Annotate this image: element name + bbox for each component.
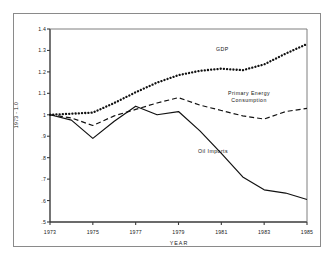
y-tick-label: .7 [18, 176, 46, 182]
x-axis-title: YEAR [50, 240, 308, 246]
chart-figure: 1.41.31.21.11.9.8.7.6.5 1973197519771979… [0, 0, 334, 261]
series-label-primary-energy-consumption: Primary Energy Consumption [228, 90, 270, 104]
plot-axes [50, 29, 307, 222]
y-tick-label: 1.2 [18, 69, 46, 75]
x-tick-label: 1977 [122, 229, 150, 235]
x-tick-label: 1985 [293, 229, 321, 235]
x-tick-label: 1981 [207, 229, 235, 235]
y-tick-label: .8 [18, 155, 46, 161]
y-tick-label: 1.3 [18, 47, 46, 53]
y-axis-title: 1973 - 1.0 [13, 85, 19, 145]
x-tick-label: 1975 [79, 229, 107, 235]
series-line-gdp [50, 44, 307, 115]
y-tick-label: 1.1 [18, 90, 46, 96]
x-tick-label: 1973 [36, 229, 64, 235]
series-label-gdp: GDP [216, 46, 229, 53]
y-tick-label: .9 [18, 133, 46, 139]
series-paths [50, 44, 307, 199]
y-tick-label: .5 [18, 219, 46, 225]
x-tick-label: 1979 [165, 229, 193, 235]
x-tick-label: 1983 [250, 229, 278, 235]
y-tick-label: 1.4 [18, 26, 46, 32]
series-line-oil-imports [50, 106, 307, 199]
series-label-line1: Primary Energy [228, 90, 270, 96]
y-tick-label: .6 [18, 198, 46, 204]
line-chart-plot [0, 0, 334, 261]
series-label-oil-imports: Oil Imports [198, 148, 228, 155]
y-tick-label: 1 [18, 112, 46, 118]
series-label-line2: Consumption [231, 97, 267, 103]
